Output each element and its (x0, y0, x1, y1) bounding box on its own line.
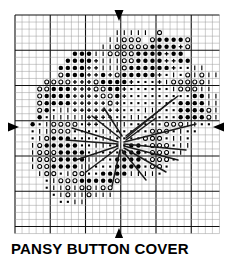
open-circle-symbol (179, 122, 183, 126)
filled-circle-symbol (129, 66, 133, 70)
small-dot-symbol (180, 74, 182, 76)
small-dot-symbol (130, 88, 132, 90)
small-dot-symbol (137, 102, 139, 104)
small-dot-symbol (81, 144, 83, 146)
open-circle-symbol (150, 38, 154, 42)
filled-circle-symbol (87, 52, 91, 56)
small-dot-symbol (158, 95, 160, 97)
filled-circle-symbol (164, 45, 168, 49)
open-circle-symbol (101, 94, 105, 98)
open-circle-symbol (45, 87, 49, 91)
open-circle-symbol (94, 87, 98, 91)
small-dot-symbol (88, 173, 90, 175)
small-dot-symbol (53, 194, 55, 196)
filled-circle-symbol (52, 164, 56, 168)
small-dot-symbol (130, 102, 132, 104)
open-circle-symbol (45, 165, 49, 169)
small-dot-symbol (187, 95, 189, 97)
filled-circle-symbol (59, 66, 63, 70)
filled-circle-symbol (143, 73, 147, 77)
open-circle-symbol (59, 73, 63, 77)
small-dot-symbol (130, 137, 132, 139)
open-circle-symbol (165, 150, 169, 154)
open-circle-symbol (158, 136, 162, 140)
open-circle-symbol (38, 108, 42, 112)
filled-circle-symbol (59, 101, 63, 105)
filled-circle-symbol (186, 108, 190, 112)
filled-circle-symbol (150, 45, 154, 49)
filled-circle-symbol (66, 66, 70, 70)
small-dot-symbol (130, 95, 132, 97)
small-dot-symbol (144, 95, 146, 97)
small-dot-symbol (81, 137, 83, 139)
small-dot-symbol (158, 173, 160, 175)
filled-circle-symbol (193, 94, 197, 98)
open-circle-symbol (101, 87, 105, 91)
open-circle-symbol (38, 165, 42, 169)
small-dot-symbol (144, 130, 146, 132)
filled-circle-symbol (52, 94, 56, 98)
open-circle-symbol (172, 122, 176, 126)
open-circle-symbol (200, 73, 204, 77)
bottom-center-arrow (115, 228, 124, 238)
open-circle-symbol (143, 45, 147, 49)
open-circle-symbol (186, 45, 190, 49)
open-circle-symbol (186, 80, 190, 84)
open-circle-symbol (94, 80, 98, 84)
filled-circle-symbol (87, 59, 91, 63)
filled-circle-symbol (52, 136, 56, 140)
filled-circle-symbol (122, 171, 126, 175)
open-circle-symbol (150, 136, 154, 140)
filled-circle-symbol (178, 115, 182, 119)
open-circle-symbol (52, 129, 56, 133)
filled-circle-symbol (164, 66, 168, 70)
filled-circle-symbol (122, 80, 126, 84)
filled-circle-symbol (178, 52, 182, 56)
stitch-symbols (30, 30, 216, 204)
filled-circle-symbol (143, 52, 147, 56)
small-dot-symbol (123, 102, 125, 104)
filled-circle-symbol (136, 73, 140, 77)
filled-circle-symbol (122, 73, 126, 77)
small-dot-symbol (95, 173, 97, 175)
open-circle-symbol (73, 179, 77, 183)
open-circle-symbol (115, 179, 119, 183)
open-circle-symbol (38, 94, 42, 98)
small-dot-symbol (166, 166, 168, 168)
small-dot-symbol (95, 137, 97, 139)
open-circle-symbol (59, 80, 63, 84)
filled-circle-symbol (108, 171, 112, 175)
small-dot-symbol (173, 130, 175, 132)
filled-circle-symbol (80, 73, 84, 77)
filled-circle-symbol (45, 143, 49, 147)
open-circle-symbol (45, 80, 49, 84)
small-dot-symbol (46, 187, 48, 189)
small-dot-symbol (116, 116, 118, 118)
filled-circle-symbol (108, 80, 112, 84)
cross-stitch-chart (0, 0, 238, 238)
filled-circle-symbol (150, 52, 154, 56)
open-circle-symbol (193, 87, 197, 91)
filled-circle-symbol (73, 52, 77, 56)
filled-circle-symbol (178, 101, 182, 105)
filled-circle-symbol (164, 37, 168, 41)
small-dot-symbol (123, 130, 125, 132)
small-dot-symbol (102, 166, 104, 168)
small-dot-symbol (144, 102, 146, 104)
filled-circle-symbol (108, 87, 112, 91)
filled-circle-symbol (115, 87, 119, 91)
open-circle-symbol (186, 38, 190, 42)
small-dot-symbol (46, 180, 48, 182)
filled-circle-symbol (101, 80, 105, 84)
filled-circle-symbol (45, 94, 49, 98)
open-circle-symbol (136, 38, 140, 42)
small-dot-symbol (95, 130, 97, 132)
filled-circle-symbol (193, 115, 197, 119)
open-circle-symbol (38, 101, 42, 105)
small-dot-symbol (158, 123, 160, 125)
open-circle-symbol (115, 52, 119, 56)
open-circle-symbol (66, 193, 70, 197)
open-circle-symbol (87, 193, 91, 197)
small-dot-symbol (194, 130, 196, 132)
small-dot-symbol (32, 130, 34, 132)
